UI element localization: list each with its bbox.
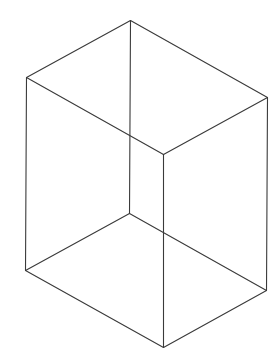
edge-top-back-to-top-right [131, 21, 268, 98]
diagram-canvas [0, 0, 279, 359]
edge-bottom-right-to-bottom-front [164, 291, 267, 348]
edge-top-right-to-top-front [164, 98, 268, 155]
edge-bottom-back-to-bottom-right [130, 214, 267, 291]
edge-top-back-to-bottom-back [130, 21, 131, 214]
edge-top-back-to-top-left [27, 21, 131, 78]
edge-bottom-left-to-bottom-front [26, 271, 164, 348]
edge-top-left-to-bottom-left [26, 78, 27, 271]
wireframe-box-diagram [0, 0, 279, 359]
edge-top-left-to-top-front [27, 78, 164, 155]
box-edges [26, 21, 268, 348]
edge-top-right-to-bottom-right [267, 98, 268, 291]
edge-bottom-back-to-bottom-left [26, 214, 130, 271]
